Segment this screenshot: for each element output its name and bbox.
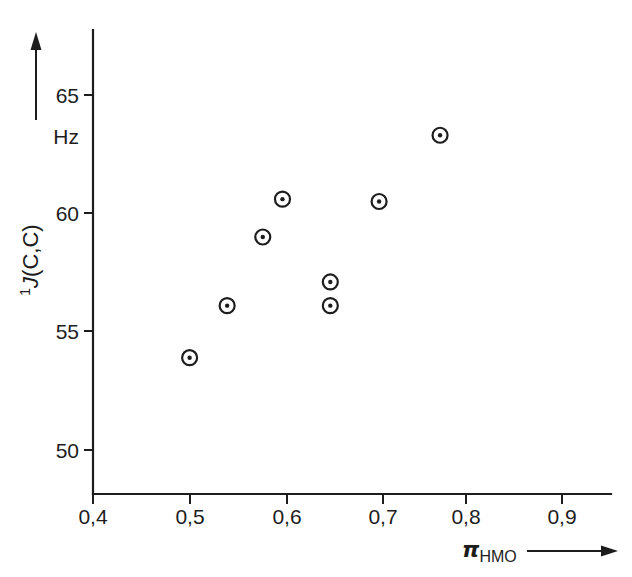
data-point bbox=[372, 194, 387, 209]
x-axis-title: πHMO bbox=[462, 537, 517, 565]
x-tick-label-2: 0,6 bbox=[272, 505, 301, 528]
x-tick-label-1: 0,5 bbox=[175, 505, 204, 528]
y-tick-label-0: 65 bbox=[56, 84, 79, 107]
y-tick-label-2: 55 bbox=[56, 320, 79, 343]
y-axis-title-superscript: 1 bbox=[17, 288, 33, 296]
x-axis-title-symbol: π bbox=[462, 537, 480, 562]
x-axis-title-subscript: HMO bbox=[479, 548, 516, 565]
y-axis-title: 1J(C,C) bbox=[17, 224, 43, 295]
plot-canvas: 1J(C,C) 65 60 55 50 Hz bbox=[0, 0, 632, 577]
data-point bbox=[220, 298, 235, 313]
y-axis-title-rest: (C,C) bbox=[18, 224, 43, 277]
x-tick-label-4: 0,8 bbox=[451, 505, 480, 528]
data-point bbox=[182, 350, 197, 365]
scatter-plot-figure: 1J(C,C) 65 60 55 50 Hz bbox=[0, 0, 632, 577]
data-point bbox=[255, 230, 270, 245]
svg-text:πHMO: πHMO bbox=[462, 537, 517, 565]
x-axis-ticks bbox=[93, 494, 562, 504]
x-tick-label-0: 0,4 bbox=[78, 505, 108, 528]
data-point bbox=[275, 192, 290, 207]
y-tick-label-1: 60 bbox=[56, 202, 79, 225]
y-tick-label-3: 50 bbox=[56, 439, 79, 462]
y-axis-direction-arrow-icon bbox=[31, 32, 42, 120]
y-axis-ticks bbox=[84, 95, 93, 450]
svg-text:1J(C,C): 1J(C,C) bbox=[17, 224, 43, 295]
scatter-series bbox=[182, 128, 447, 365]
x-axis-tick-labels: 0,4 0,5 0,6 0,7 0,8 0,9 bbox=[78, 505, 576, 528]
x-tick-label-5: 0,9 bbox=[547, 505, 576, 528]
x-tick-label-3: 0,7 bbox=[368, 505, 397, 528]
data-point bbox=[433, 128, 448, 143]
data-point bbox=[323, 274, 338, 289]
data-point bbox=[323, 298, 338, 313]
y-axis-unit-label: Hz bbox=[53, 125, 79, 148]
x-axis-direction-arrow-icon bbox=[527, 546, 618, 557]
